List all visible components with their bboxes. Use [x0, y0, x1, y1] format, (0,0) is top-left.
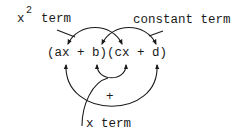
x2-term-label: term	[41, 13, 71, 26]
x2-term-arc	[68, 28, 122, 45]
x2-exponent-label: 2	[26, 6, 32, 16]
constant-term-arc	[102, 28, 156, 45]
foil-diagram: x 2 term constant term (ax + b)(cx + d) …	[0, 0, 245, 138]
x2-base-label: x	[17, 13, 25, 26]
x2-term-leader	[57, 30, 75, 37]
constant-term-leader	[149, 31, 163, 36]
inner-x-term-arc	[97, 65, 126, 78]
constant-term-label: constant term	[133, 14, 231, 27]
x-term-label: x term	[86, 118, 131, 131]
plus-sign: +	[106, 91, 114, 104]
expression: (ax + b)(cx + d)	[47, 47, 167, 60]
